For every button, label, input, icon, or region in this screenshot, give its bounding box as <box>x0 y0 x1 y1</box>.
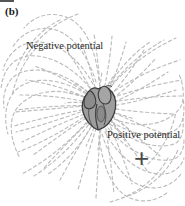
plus-sign-icon: + <box>134 145 149 171</box>
positive-potential-label: Positive potential <box>107 129 180 141</box>
negative-potential-label: Negative potential <box>26 40 103 52</box>
figure-panel: (b) Negative potential Positive potentia… <box>0 0 185 206</box>
panel-label: (b) <box>5 5 18 18</box>
heart-illustration <box>78 84 120 132</box>
